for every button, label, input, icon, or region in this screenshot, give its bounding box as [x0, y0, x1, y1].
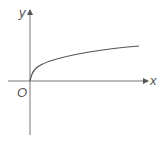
function-graph: y x O — [0, 0, 162, 148]
function-curve — [30, 46, 139, 81]
y-axis-label: y — [18, 5, 27, 20]
x-axis-label: x — [149, 73, 157, 88]
origin-label: O — [17, 85, 27, 100]
